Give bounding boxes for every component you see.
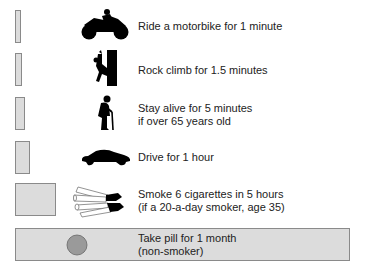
car-icon <box>80 148 132 166</box>
pill-icon <box>66 234 88 256</box>
label-smoke: Smoke 6 cigarettes in 5 hours (if a 20-a… <box>138 188 285 214</box>
bar-smoke <box>15 183 56 216</box>
bar-rock-climb <box>15 53 22 86</box>
bar-stay-alive <box>15 97 25 130</box>
label-motorbike: Ride a motorbike for 1 minute <box>138 20 282 33</box>
motorbike-icon <box>80 8 130 40</box>
cigarettes-icon <box>68 183 128 219</box>
bar-motorbike <box>15 10 21 43</box>
rock-climber-icon <box>90 50 120 86</box>
label-drive: Drive for 1 hour <box>138 151 214 164</box>
label-stay-alive: Stay alive for 5 minutes if over 65 year… <box>138 102 252 128</box>
label-rock-climb: Rock climb for 1.5 minutes <box>138 64 268 77</box>
elderly-person-icon <box>92 94 116 132</box>
bar-drive <box>15 141 30 174</box>
label-pill: Take pill for 1 month (non-smoker) <box>138 232 236 258</box>
